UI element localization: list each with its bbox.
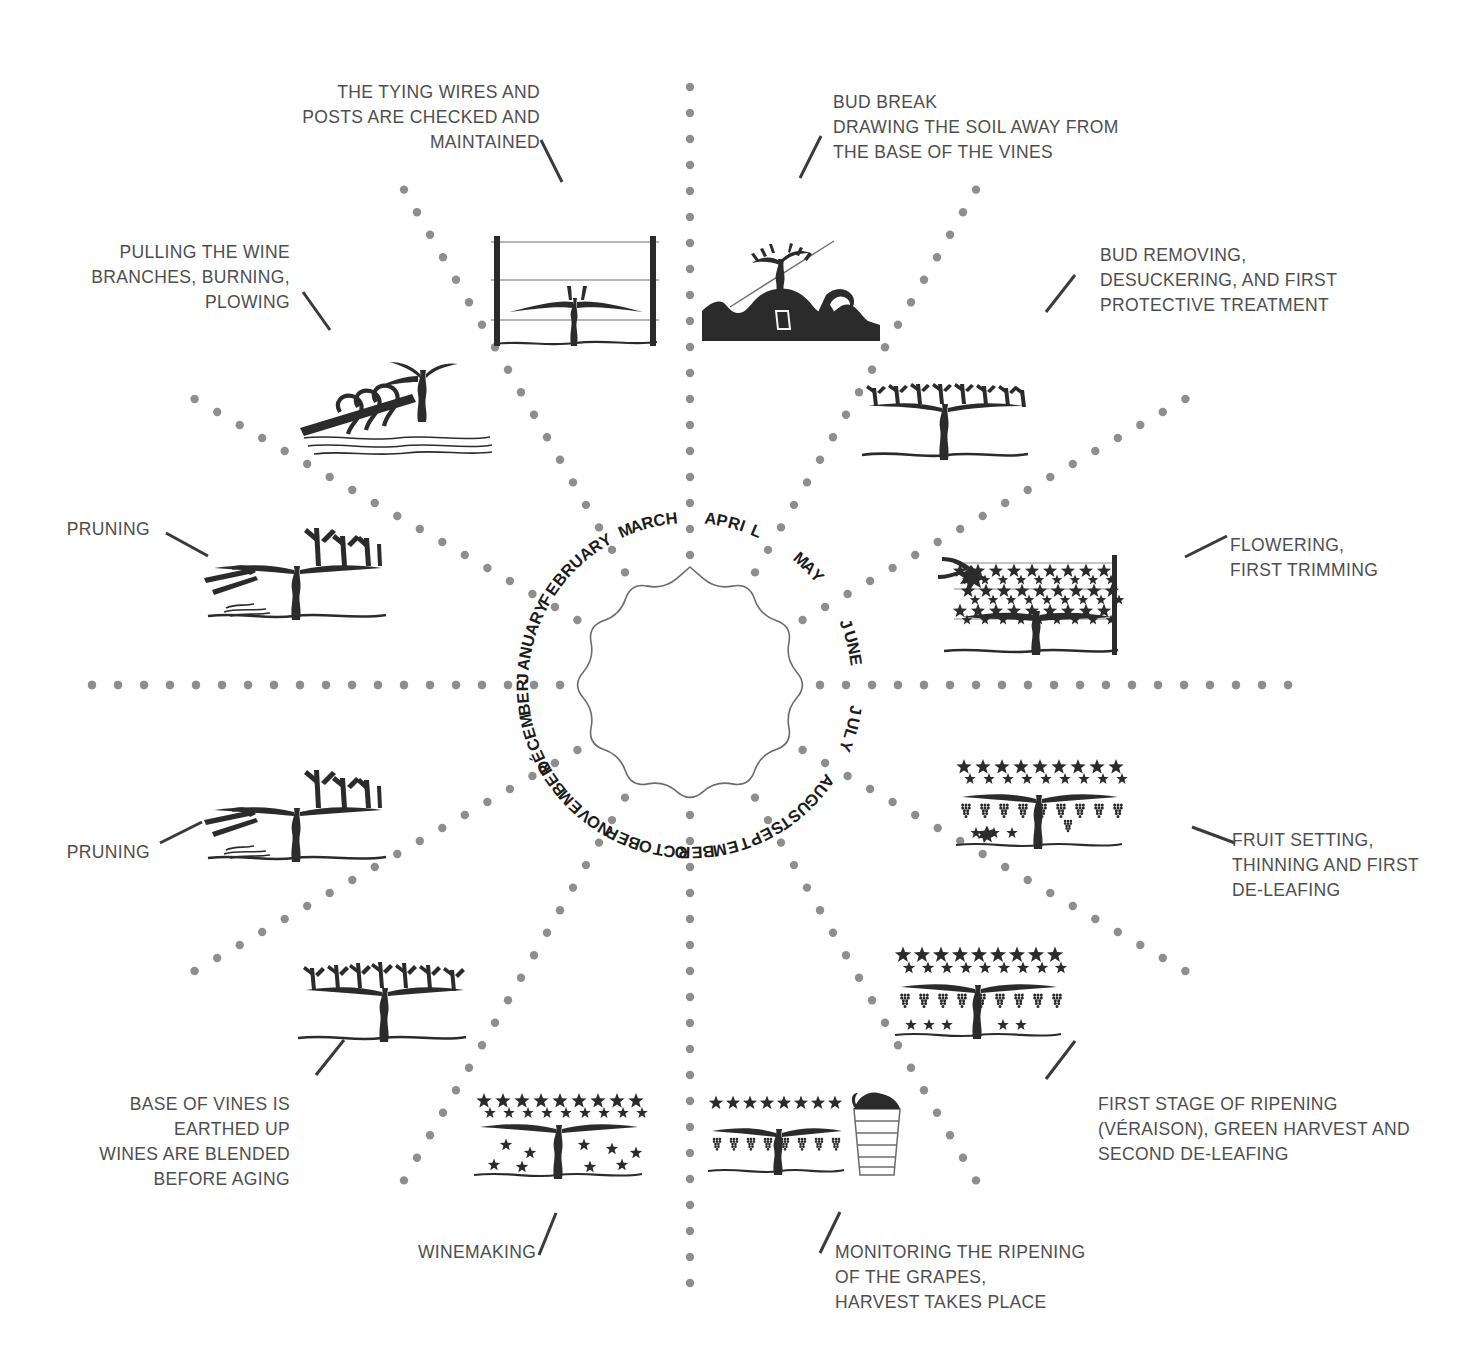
- foliage-shape: [1006, 827, 1017, 838]
- label-june: FLOWERING, FIRST TRIMMING: [1230, 533, 1460, 583]
- ray-dot: [504, 996, 512, 1004]
- ray-dot: [1114, 928, 1122, 936]
- foliage-shape: [903, 962, 915, 974]
- ray-dot: [868, 681, 876, 689]
- foliage-shape: [979, 584, 993, 598]
- ray-dot: [416, 837, 424, 845]
- foliage-shape: [1017, 962, 1029, 974]
- foliage-shape: [832, 1138, 841, 1151]
- ray-dot: [517, 388, 525, 396]
- ray-dot: [946, 681, 954, 689]
- foliage-shape: [990, 947, 1006, 962]
- foliage-shape: [999, 804, 1009, 818]
- ray-dot: [1023, 876, 1031, 884]
- foliage-shape: [1078, 773, 1089, 784]
- foliage-shape: [1064, 820, 1072, 833]
- ray-dot: [416, 525, 424, 533]
- ray-dot: [686, 525, 694, 533]
- ray-dot: [686, 1123, 694, 1131]
- foliage-shape: [979, 962, 991, 974]
- ray-dot: [829, 433, 837, 441]
- ray-dot: [348, 486, 356, 494]
- ray-dot: [452, 1086, 460, 1094]
- ray-dot: [465, 298, 473, 306]
- label-august: FIRST STAGE OF RIPENING (VÉRAISON), GREE…: [1098, 1092, 1476, 1167]
- ray-dot: [543, 929, 551, 937]
- ray-dot: [686, 421, 694, 429]
- ray-dot: [1091, 447, 1099, 455]
- ray-dot: [140, 681, 148, 689]
- ray-dot: [686, 161, 694, 169]
- ray-dot: [426, 681, 434, 689]
- label-november: BASE OF VINES IS EARTHED UP WINES ARE BL…: [45, 1092, 290, 1192]
- foliage-shape: [1070, 759, 1085, 774]
- foliage-shape: [709, 1096, 723, 1110]
- ray-dot: [972, 1176, 980, 1184]
- ray-dot: [946, 1131, 954, 1139]
- ray-dot: [777, 838, 785, 846]
- ray-dot: [483, 798, 491, 806]
- foliage-shape: [919, 994, 929, 1008]
- ray-dot: [933, 1109, 941, 1117]
- ray-dot: [959, 1154, 967, 1162]
- ray-dot: [934, 824, 942, 832]
- winemaking-vine-illustration: [466, 1083, 652, 1197]
- ray-dot: [920, 276, 928, 284]
- ray-dot: [88, 681, 96, 689]
- ray-dot: [569, 478, 577, 486]
- ray-dot: [821, 759, 829, 767]
- ray-dot: [1046, 889, 1054, 897]
- foliage-shape: [1036, 962, 1048, 974]
- ray-dot: [803, 478, 811, 486]
- ray-dot: [686, 1279, 694, 1287]
- foliage-shape: [1079, 564, 1093, 578]
- ray-dot: [530, 411, 538, 419]
- ray-dot: [790, 861, 798, 869]
- ray-dot: [686, 1071, 694, 1079]
- foliage-shape: [1059, 773, 1070, 784]
- ray-dot: [686, 1175, 694, 1183]
- ray-dot: [959, 208, 967, 216]
- ray-dot: [1154, 681, 1162, 689]
- foliage-shape: [983, 773, 994, 784]
- foliage-shape: [747, 1138, 756, 1151]
- foliage-shape: [1028, 947, 1044, 962]
- leader-february: [303, 292, 330, 330]
- ray-dot: [192, 681, 200, 689]
- foliage-shape: [980, 804, 990, 818]
- foliage-shape: [1018, 804, 1028, 818]
- ray-dot: [439, 253, 447, 261]
- foliage-shape: [997, 584, 1011, 598]
- ray-dot: [1258, 681, 1266, 689]
- foliage-shape: [1108, 759, 1123, 774]
- ray-dot: [868, 996, 876, 1004]
- foliage-shape: [905, 1019, 916, 1030]
- ray-dot: [190, 967, 198, 975]
- ray-dot: [842, 681, 850, 689]
- foliage-shape: [1015, 1019, 1026, 1030]
- ray-dot: [506, 577, 514, 585]
- ray-dot: [686, 889, 694, 897]
- ray-dot: [461, 551, 469, 559]
- ray-dot: [842, 951, 850, 959]
- ray-dot: [556, 456, 564, 464]
- ray-dot: [1284, 681, 1292, 689]
- ray-dot: [478, 681, 486, 689]
- ray-dot: [1181, 395, 1189, 403]
- foliage-shape: [794, 1096, 808, 1110]
- ray-dot: [1128, 681, 1136, 689]
- foliage-shape: [628, 1093, 643, 1108]
- foliage-shape: [1013, 759, 1028, 774]
- foliage-shape: [995, 994, 1005, 1008]
- ray-dot: [866, 785, 874, 793]
- foliage-shape: [598, 1107, 609, 1118]
- ray-dot: [608, 816, 616, 824]
- ray-dot: [400, 681, 408, 689]
- center-rosette-shape: [578, 567, 803, 797]
- label-february: PULLING THE WINE BRANCHES, BURNING, PLOW…: [20, 240, 290, 315]
- ray-dot: [244, 681, 252, 689]
- ray-dot: [888, 798, 896, 806]
- ray-dot: [439, 1109, 447, 1117]
- ray-dot: [1206, 681, 1214, 689]
- foliage-shape: [1094, 804, 1104, 818]
